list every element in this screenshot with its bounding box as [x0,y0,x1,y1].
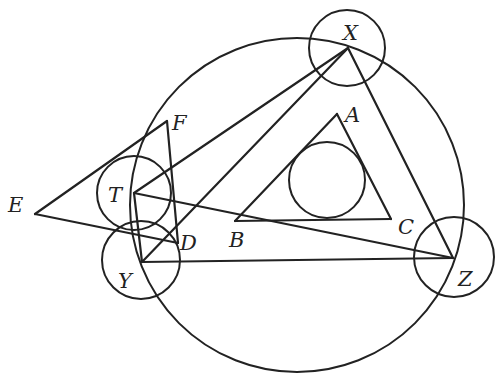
point-label-a: A [343,103,360,127]
diagram-canvas: XAFTEBCDYZ [0,0,499,377]
point-label-c: C [398,215,414,239]
point-label-e: E [7,193,23,217]
circumcircle [130,38,464,372]
geometry-diagram: XAFTEBCDYZ [0,0,499,377]
point-label-d: D [179,231,197,255]
point-label-b: B [228,228,244,252]
segment-ef [35,121,167,214]
segment-yz [142,258,453,262]
segment-ca [337,114,391,219]
point-label-t: T [108,183,124,207]
point-label-f: F [171,111,188,135]
point-label-z: Z [457,267,473,291]
point-label-x: X [341,21,359,45]
point-label-y: Y [118,269,134,293]
segment-ab [235,114,337,221]
circle-z [414,217,494,297]
segment-ty [134,193,142,262]
circles-group [97,10,494,372]
